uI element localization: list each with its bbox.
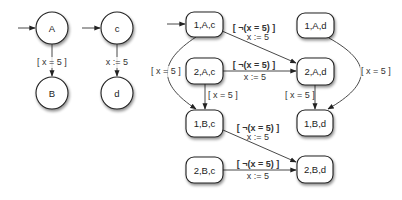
- product-automaton: [ ¬(x = 5) ] x := 5 [ ¬(x = 5) ] x := 5 …: [150, 12, 394, 183]
- state-1Ad[interactable]: 1,A,d: [297, 13, 334, 38]
- transition-c-d-label: x := 5: [106, 57, 128, 67]
- label-2Ac-1Bc-guard: [ x = 5 ]: [208, 90, 238, 100]
- state-2Bc[interactable]: 2,B,c: [186, 157, 223, 183]
- automaton-2: c x := 5 d: [82, 12, 133, 109]
- state-1Bc[interactable]: 1,B,c: [186, 110, 223, 137]
- label-2Ac-2Ad-guard: [ ¬(x = 5) ]: [233, 60, 276, 70]
- state-c[interactable]: c: [101, 12, 133, 44]
- state-d-label: d: [114, 88, 119, 99]
- state-1Ac[interactable]: 1,A,c: [186, 12, 223, 37]
- state-1Bd-label: 1,B,d: [304, 118, 326, 129]
- label-1Ac-1Bc-guard: [ x = 5 ]: [151, 66, 181, 76]
- state-2Bd-label: 2,B,d: [304, 164, 326, 175]
- label-2Bc-2Bd-action: x := 5: [247, 171, 269, 181]
- state-2Ad[interactable]: 2,A,d: [297, 58, 334, 85]
- state-c-label: c: [115, 23, 120, 34]
- transition-A-B-label: [ x = 5 ]: [37, 57, 67, 67]
- state-A[interactable]: A: [36, 12, 68, 44]
- state-2Bc-label: 2,B,c: [194, 165, 216, 176]
- automaton-1: A [ x = 5 ] B: [18, 12, 68, 109]
- label-1Ad-1Bd-guard: [ x = 5 ]: [361, 66, 391, 76]
- state-2Ad-label: 2,A,d: [304, 66, 326, 77]
- label-1Bc-2Bd-action: x := 5: [247, 132, 269, 142]
- state-2Ac-label: 2,A,c: [194, 66, 216, 77]
- label-2Bc-2Bd-guard: [ ¬(x = 5) ]: [237, 159, 280, 169]
- state-2Bd[interactable]: 2,B,d: [297, 156, 333, 183]
- state-machine-diagram: A [ x = 5 ] B c x := 5 d: [0, 0, 402, 200]
- label-2Ac-2Ad-action: x := 5: [244, 72, 266, 82]
- state-B[interactable]: B: [36, 77, 68, 109]
- state-1Ac-label: 1,A,c: [194, 19, 216, 30]
- state-1Bd[interactable]: 1,B,d: [297, 110, 333, 136]
- label-1Ac-2Ad-action: x := 5: [247, 32, 269, 42]
- state-1Ad-label: 1,A,d: [304, 20, 326, 31]
- state-2Ac[interactable]: 2,A,c: [186, 58, 223, 84]
- state-1Bc-label: 1,B,c: [194, 118, 216, 129]
- state-d[interactable]: d: [101, 77, 133, 109]
- state-B-label: B: [49, 88, 55, 99]
- state-A-label: A: [49, 23, 56, 34]
- label-2Ad-1Bd-guard: [ x = 5 ]: [285, 90, 315, 100]
